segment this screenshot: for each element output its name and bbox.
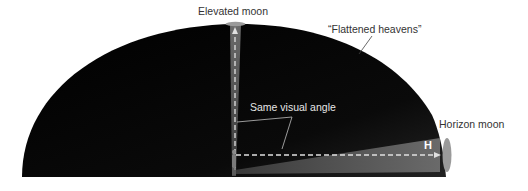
same-visual-angle-label: Same visual angle — [250, 101, 336, 113]
diagram-canvas — [0, 0, 528, 191]
elevated-moon-icon — [226, 22, 246, 26]
flattened-heavens-label: “Flattened heavens” — [328, 23, 421, 35]
elevated-moon-label: Elevated moon — [198, 5, 268, 17]
flattened-heavens-leader-line — [359, 36, 372, 54]
horizon-moon-icon — [443, 138, 452, 172]
horizon-marker-label: H — [424, 139, 432, 151]
horizon-moon-label: Horizon moon — [439, 118, 504, 130]
